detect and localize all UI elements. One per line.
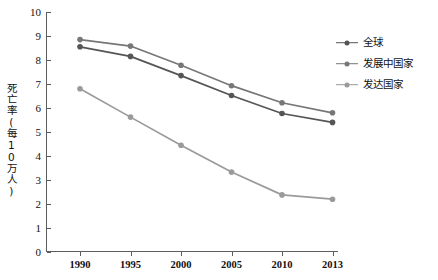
y-tick-label: 6 — [36, 102, 42, 114]
data-point — [279, 100, 285, 106]
y-tick-label: 8 — [36, 54, 42, 66]
y-tick-label: 10 — [30, 6, 41, 18]
legend-label: 全球 — [363, 37, 383, 48]
x-tick-label: 2000 — [171, 259, 192, 270]
data-point — [178, 73, 184, 79]
x-tick-label: 2013 — [322, 259, 343, 270]
plot-area: 012345678910 199019952000200520102013 — [46, 12, 386, 252]
series-1 — [77, 37, 335, 116]
line-chart: 死亡率(每10万人) 012345678910 1990199520002005… — [0, 0, 438, 280]
legend-item[interactable]: 发展中国家 — [336, 53, 438, 74]
y-tick-mark — [47, 252, 51, 253]
data-point — [229, 83, 235, 89]
y-tick-label: 9 — [36, 30, 42, 42]
x-tick-label: 1995 — [120, 259, 141, 270]
data-point — [178, 142, 184, 148]
data-point — [77, 37, 83, 43]
legend-marker-icon — [336, 80, 358, 90]
x-tick-mark — [181, 252, 182, 256]
legend-item[interactable]: 发达国家 — [336, 74, 438, 95]
y-axis-title: 死亡率(每10万人) — [0, 0, 22, 280]
y-tick-label: 4 — [36, 150, 42, 162]
legend-label: 发展中国家 — [363, 58, 413, 69]
data-point — [128, 54, 134, 60]
data-point — [229, 169, 235, 175]
data-point — [330, 120, 336, 126]
x-tick-label: 1990 — [70, 259, 91, 270]
y-tick-label: 0 — [36, 246, 42, 258]
data-point — [128, 114, 134, 120]
legend: 全球发展中国家发达国家 — [336, 32, 438, 95]
data-point — [229, 93, 235, 99]
y-tick-label: 2 — [36, 198, 42, 210]
series-line — [80, 40, 333, 113]
y-axis-title-text: 死亡率(每10万人) — [6, 83, 17, 197]
series-0 — [77, 44, 335, 125]
legend-marker-icon — [336, 38, 358, 48]
data-point — [77, 86, 83, 92]
data-point — [279, 192, 285, 198]
y-tick-label: 1 — [36, 222, 42, 234]
series-layer — [46, 12, 386, 252]
y-tick-label: 5 — [36, 126, 42, 138]
x-tick-mark — [232, 252, 233, 256]
legend-item[interactable]: 全球 — [336, 32, 438, 53]
data-point — [77, 44, 83, 50]
legend-marker-icon — [336, 59, 358, 69]
x-tick-mark — [131, 252, 132, 256]
x-tick-mark — [282, 252, 283, 256]
x-tick-label: 2010 — [272, 259, 293, 270]
x-tick-label: 2005 — [221, 259, 242, 270]
series-line — [80, 47, 333, 123]
series-2 — [77, 86, 335, 202]
x-tick-mark — [333, 252, 334, 256]
data-point — [178, 62, 184, 68]
y-tick-label: 7 — [36, 78, 42, 90]
y-tick-label: 3 — [36, 174, 42, 186]
legend-label: 发达国家 — [363, 79, 403, 90]
data-point — [128, 43, 134, 49]
data-point — [330, 110, 336, 116]
data-point — [279, 111, 285, 117]
x-tick-mark — [80, 252, 81, 256]
data-point — [330, 196, 336, 202]
